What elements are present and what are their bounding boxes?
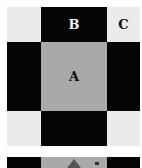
label-a: A [69, 69, 79, 84]
corner-square-bottom-right [107, 111, 140, 146]
side-rectangle-left [7, 42, 41, 111]
triangle-marker-icon [67, 159, 81, 168]
strip-segment-left [7, 157, 41, 168]
side-rectangle-right [107, 42, 140, 111]
label-b: B [69, 17, 80, 32]
side-rectangle-bottom [41, 111, 107, 146]
center-square: A [41, 42, 107, 111]
side-rectangle-top: B [41, 7, 107, 42]
corner-square-bottom-left [7, 111, 41, 146]
corner-square-top-right: C [107, 7, 140, 42]
strip-segment-right [107, 157, 140, 168]
strip-segment-center [41, 157, 107, 168]
corner-square-top-left [7, 7, 41, 42]
label-c: C [118, 17, 128, 32]
small-mark-icon [95, 162, 99, 165]
